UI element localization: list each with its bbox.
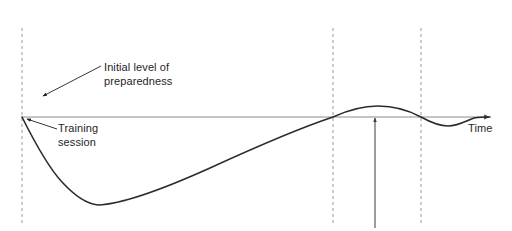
annotation-initial-level-of-preparedness: Initial level of preparedness (104, 60, 172, 88)
initial-level-leader-arrow-icon (43, 66, 101, 96)
annotation-initial-level-line-1: Initial level of (104, 60, 172, 74)
axis-label-time: Time (468, 121, 492, 135)
annotation-initial-level-line-2: preparedness (104, 74, 172, 88)
training-session-leader-arrow-icon (27, 119, 57, 129)
annotation-training-session-line-1: Training (58, 121, 98, 135)
preparedness-curve-diagram: Initial level of preparedness Training s… (0, 0, 512, 231)
diagram-canvas (0, 0, 512, 231)
annotation-training-session-line-2: session (58, 135, 98, 149)
annotation-training-session: Training session (58, 121, 98, 149)
